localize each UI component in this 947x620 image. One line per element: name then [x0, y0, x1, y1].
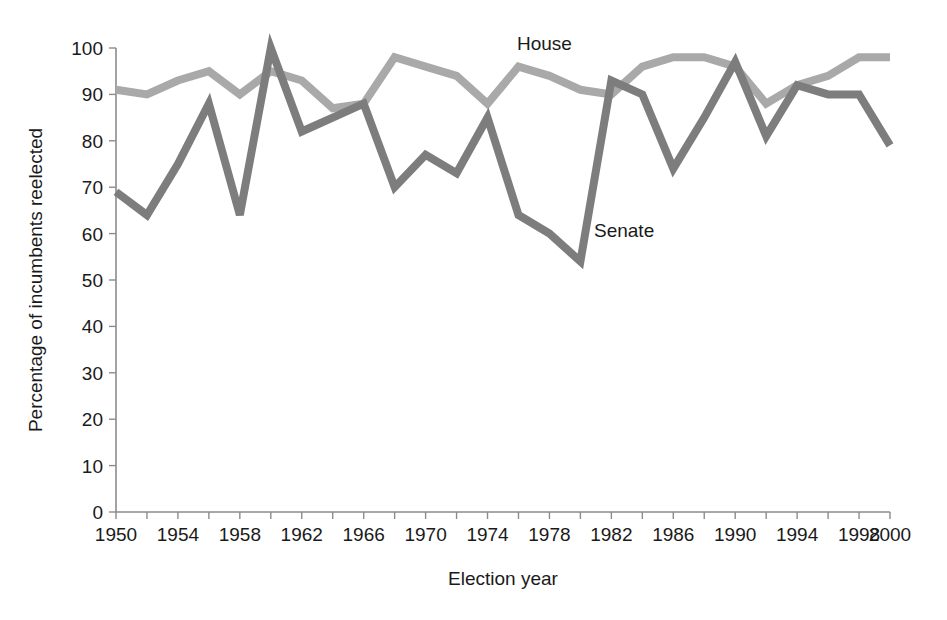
y-tick-label: 20 — [82, 409, 103, 430]
data-line-house — [116, 57, 890, 108]
line-chart: 0102030405060708090100 19501954195819621… — [0, 0, 947, 620]
x-tick-label: 1986 — [652, 524, 694, 545]
y-tick-label: 60 — [82, 224, 103, 245]
x-tick-label: 1978 — [528, 524, 570, 545]
x-axis-title: Election year — [448, 568, 559, 589]
x-tick-label: 1954 — [157, 524, 200, 545]
y-tick-label: 70 — [82, 177, 103, 198]
y-tick-label: 0 — [92, 502, 103, 523]
x-tick-label: 1994 — [776, 524, 819, 545]
chart-data-lines — [116, 48, 890, 261]
y-tick-label: 30 — [82, 363, 103, 384]
x-tick-label: 1958 — [219, 524, 261, 545]
x-tick-label: 1970 — [404, 524, 446, 545]
series-label-house: House — [517, 33, 572, 54]
x-tick-label: 1966 — [343, 524, 385, 545]
y-tick-label: 50 — [82, 270, 103, 291]
y-tick-label: 90 — [82, 84, 103, 105]
y-axis-tick-labels: 0102030405060708090100 — [71, 38, 103, 523]
x-axis-tick-labels: 1950195419581962196619701974197819821986… — [95, 524, 911, 545]
x-tick-label: 1950 — [95, 524, 137, 545]
x-tick-label: 1990 — [714, 524, 756, 545]
series-label-senate: Senate — [594, 220, 654, 241]
x-tick-label: 1982 — [590, 524, 632, 545]
y-tick-label: 100 — [71, 38, 103, 59]
y-tick-label: 40 — [82, 316, 103, 337]
x-tick-label: 2000 — [869, 524, 911, 545]
chart-page: 0102030405060708090100 19501954195819621… — [0, 0, 947, 620]
y-axis-title: Percentage of incumbents reelected — [25, 128, 46, 432]
x-tick-label: 1974 — [466, 524, 509, 545]
x-tick-label: 1962 — [281, 524, 323, 545]
y-tick-label: 10 — [82, 456, 103, 477]
y-tick-label: 80 — [82, 131, 103, 152]
